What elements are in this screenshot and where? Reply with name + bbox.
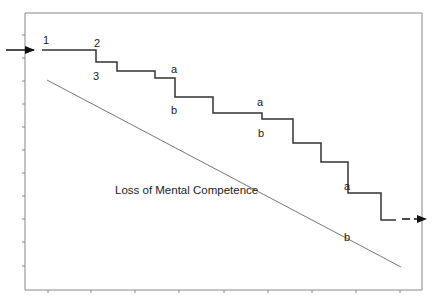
decline-label: Loss of Mental Competence	[115, 184, 258, 196]
label-a-3: a	[344, 180, 351, 192]
label-b-3: b	[344, 231, 350, 243]
label-a-1: a	[171, 63, 178, 75]
label-a-2: a	[257, 96, 264, 108]
staircase-decline-diagram: 1 2 3 a b a b a b Loss of Mental Compete…	[0, 0, 434, 303]
step-label-3: 3	[93, 70, 99, 82]
step-label-2: 2	[94, 37, 100, 49]
step-label-1: 1	[43, 34, 49, 46]
label-b-1: b	[171, 104, 177, 116]
label-b-2: b	[258, 127, 264, 139]
plot-frame	[25, 13, 422, 290]
